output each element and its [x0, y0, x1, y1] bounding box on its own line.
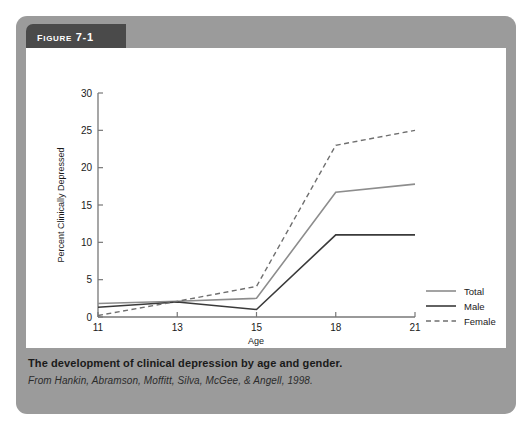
y-tick-label: 30 [81, 88, 93, 99]
y-tick-label: 15 [81, 200, 93, 211]
caption-source: From Hankin, Abramson, Moffitt, Silva, M… [28, 373, 498, 388]
legend-label-female: Female [464, 316, 496, 327]
figure-number-band: Figure 7-1 [26, 24, 126, 48]
x-tick-label: 18 [330, 322, 342, 333]
y-tick-label: 10 [81, 237, 93, 248]
y-tick-label: 5 [86, 274, 92, 285]
depression-line-chart: 051015202530 1113151821 Percent Clinical… [26, 48, 506, 348]
chart-legend: TotalMaleFemale [426, 286, 496, 327]
figure-panel: Figure 7-1 051015202530 1113151821 Perce… [16, 16, 516, 414]
x-axis-title: Age [248, 336, 264, 346]
chart-container: 051015202530 1113151821 Percent Clinical… [26, 48, 506, 348]
caption-title: The development of clinical depression b… [28, 356, 498, 371]
chart-series-group [98, 130, 415, 315]
y-tick-label: 25 [81, 125, 93, 136]
x-tick-label: 15 [251, 322, 263, 333]
legend-label-male: Male [464, 301, 485, 312]
y-axis-ticks: 051015202530 [81, 88, 103, 323]
series-line-female [98, 130, 415, 315]
x-tick-label: 11 [93, 322, 104, 333]
x-tick-label: 13 [172, 322, 184, 333]
figure-caption: The development of clinical depression b… [28, 356, 498, 388]
y-tick-label: 0 [86, 312, 92, 323]
y-tick-label: 20 [81, 162, 93, 173]
x-tick-label: 21 [409, 322, 421, 333]
x-axis-ticks: 1113151821 [93, 312, 421, 333]
y-axis-title: Percent Clinically Depressed [56, 147, 66, 262]
figure-number-label: Figure 7-1 [37, 29, 94, 44]
chart-axes [98, 93, 415, 317]
legend-label-total: Total [464, 286, 484, 297]
